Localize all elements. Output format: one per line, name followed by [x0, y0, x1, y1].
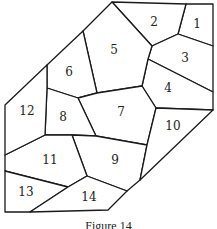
- region-label-8: 8: [59, 110, 67, 124]
- region-label-3: 3: [181, 51, 189, 65]
- region-label-6: 6: [65, 65, 73, 79]
- region-label-4: 4: [164, 81, 172, 95]
- region-map: 1234567891011121314: [0, 0, 217, 229]
- region-label-5: 5: [110, 43, 118, 57]
- region-label-14: 14: [81, 190, 97, 204]
- region-label-7: 7: [117, 105, 125, 119]
- region-label-13: 13: [18, 185, 33, 199]
- figure-caption: Figure 14: [0, 219, 217, 229]
- region-label-12: 12: [19, 104, 34, 118]
- region-label-11: 11: [42, 153, 57, 167]
- regions-group: [5, 2, 213, 212]
- region-label-9: 9: [111, 153, 119, 167]
- region-label-1: 1: [193, 17, 201, 31]
- region-label-10: 10: [165, 119, 180, 133]
- region-label-2: 2: [150, 15, 158, 29]
